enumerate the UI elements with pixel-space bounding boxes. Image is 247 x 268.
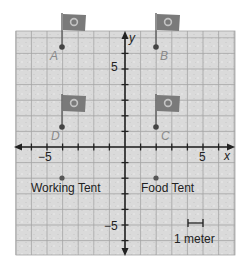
x-axis-label: x: [223, 149, 231, 163]
flag-icon: [157, 14, 180, 31]
point-label-a: A: [49, 49, 58, 63]
flag-icon: [63, 14, 86, 31]
working-tent-label: Working Tent: [31, 181, 101, 195]
flag-icon: [63, 95, 86, 112]
flag-icon: [157, 95, 180, 112]
x-tick-label-neg5: −5: [38, 150, 52, 164]
food-tent-label: Food Tent: [141, 181, 195, 195]
y-tick-label-5: 5: [111, 60, 118, 74]
scale-label: 1 meter: [174, 232, 215, 246]
point-label-c: C: [161, 129, 170, 143]
point-label-b: B: [160, 49, 168, 63]
point-label-d: D: [51, 129, 60, 143]
coordinate-plane-figure: x y −5 5 5 −5 A B D: [0, 0, 247, 268]
y-axis-label: y: [128, 31, 136, 45]
y-tick-label-neg5: −5: [104, 219, 118, 233]
x-tick-label-5: 5: [199, 150, 206, 164]
